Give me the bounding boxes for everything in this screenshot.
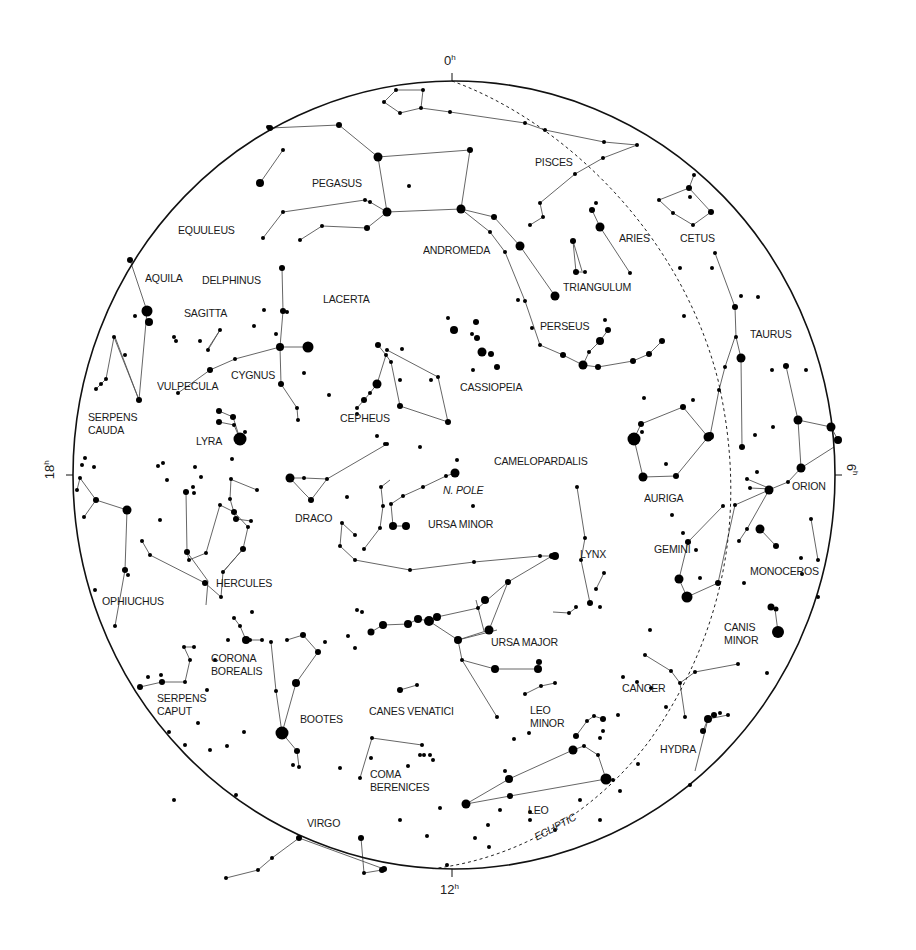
star xyxy=(567,611,571,615)
star xyxy=(407,184,411,188)
star xyxy=(473,319,479,325)
star xyxy=(249,519,253,523)
star xyxy=(231,509,237,515)
star xyxy=(594,587,598,591)
star xyxy=(233,357,237,361)
star xyxy=(421,88,425,92)
star xyxy=(382,100,386,104)
star xyxy=(250,610,254,614)
constellation-line xyxy=(77,478,127,510)
constellation-line xyxy=(596,573,604,589)
star xyxy=(595,364,601,370)
constellation-line xyxy=(476,600,484,631)
star xyxy=(346,634,350,638)
star xyxy=(384,353,388,357)
star xyxy=(422,753,426,757)
constellation-line xyxy=(421,108,637,225)
star xyxy=(280,308,286,314)
hour-label-0h: 0h xyxy=(444,53,456,68)
star xyxy=(204,551,208,555)
star xyxy=(560,352,566,358)
star xyxy=(285,638,289,642)
star xyxy=(361,397,367,403)
star xyxy=(192,645,196,649)
star xyxy=(404,620,412,628)
star xyxy=(700,728,706,734)
star xyxy=(261,236,265,240)
star xyxy=(165,478,169,482)
star xyxy=(368,629,375,636)
star xyxy=(646,351,652,357)
star xyxy=(202,580,208,586)
star xyxy=(256,868,260,872)
star xyxy=(338,544,342,548)
star xyxy=(598,736,602,740)
star xyxy=(274,689,278,693)
constellation-label: PEGASUS xyxy=(312,177,362,190)
star xyxy=(234,793,238,797)
star xyxy=(742,581,746,585)
star xyxy=(294,748,300,754)
star xyxy=(99,382,103,386)
star xyxy=(188,658,192,662)
star xyxy=(355,608,359,612)
star xyxy=(218,328,222,332)
star xyxy=(692,173,696,177)
constellation-line xyxy=(364,480,390,549)
star xyxy=(523,121,527,125)
constellation-line xyxy=(583,330,608,365)
star xyxy=(137,684,143,690)
star xyxy=(248,638,252,642)
star xyxy=(664,462,668,466)
star xyxy=(523,299,527,303)
star xyxy=(450,326,458,334)
star xyxy=(589,207,595,213)
star xyxy=(93,588,97,592)
constellation-label: BOOTES xyxy=(300,713,343,726)
star xyxy=(424,616,434,626)
constellation-line xyxy=(271,642,299,767)
star xyxy=(379,485,383,489)
star xyxy=(611,778,615,782)
star xyxy=(431,758,435,762)
star xyxy=(745,527,749,531)
hour-label-18h: 18h xyxy=(42,460,57,479)
star xyxy=(527,731,531,735)
star xyxy=(207,367,213,373)
star xyxy=(228,497,232,501)
star xyxy=(553,681,557,685)
star xyxy=(602,571,606,575)
star xyxy=(286,474,295,483)
star xyxy=(379,621,387,629)
constellation-label: PISCES xyxy=(535,156,573,169)
star xyxy=(642,396,646,400)
star xyxy=(485,626,494,635)
star xyxy=(549,553,555,559)
constellation-label: DRACO xyxy=(295,512,332,525)
star xyxy=(208,748,212,752)
star xyxy=(827,423,836,432)
star xyxy=(739,294,743,298)
star xyxy=(451,469,460,478)
constellation-line xyxy=(263,200,387,238)
star xyxy=(394,88,398,92)
star xyxy=(320,224,324,228)
star xyxy=(425,834,429,838)
star xyxy=(375,342,381,348)
star xyxy=(360,610,364,614)
star xyxy=(279,265,285,271)
star xyxy=(358,835,364,841)
star xyxy=(670,513,674,517)
star xyxy=(187,558,191,562)
star xyxy=(643,653,647,657)
star xyxy=(600,716,606,722)
star xyxy=(755,470,759,474)
constellation-label: URSA MAJOR xyxy=(491,636,558,649)
star xyxy=(285,310,289,314)
star xyxy=(445,419,451,425)
star xyxy=(523,692,527,696)
star xyxy=(276,343,284,351)
star xyxy=(594,201,598,205)
star xyxy=(799,556,803,560)
constellation-label: LYRA xyxy=(196,435,222,448)
